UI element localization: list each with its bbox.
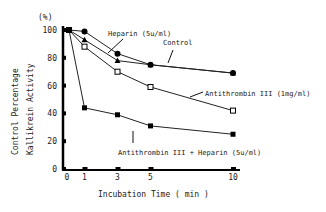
data-point (82, 37, 88, 43)
y-tick-label: 60 (47, 82, 57, 91)
x-axis-label: Incubation Time ( min ) (98, 190, 209, 199)
series-markers (66, 27, 236, 137)
y-unit-label: (%) (38, 13, 52, 22)
x-tick-label: 0 (65, 173, 70, 182)
data-point (115, 51, 121, 57)
x-tick (231, 167, 236, 171)
x-tick (83, 167, 88, 171)
y-tick-label: 40 (47, 109, 57, 118)
x-tick-label: 5 (148, 173, 153, 182)
data-point (231, 132, 236, 137)
annotation-antithrombin: Antithrombin III (1mg/ml) (205, 90, 310, 98)
arrow-antithrombin (190, 92, 203, 97)
data-point (82, 28, 88, 34)
x-tick-label: 3 (115, 173, 120, 182)
annotation-antithrombin-heparin: Antithrombin III + Heparin (5u/ml) (118, 149, 261, 157)
data-point (148, 123, 153, 128)
data-point (82, 105, 87, 110)
arrow-control (168, 50, 173, 63)
y-tick (62, 84, 66, 88)
data-point (231, 108, 236, 113)
x-tick-label: 1 (82, 173, 87, 182)
y-tick-label: 100 (43, 26, 58, 35)
y-tick (62, 167, 66, 171)
data-point (115, 58, 121, 64)
chart-svg: 020406080100013510 (%) Control Percentag… (0, 0, 326, 212)
data-point (82, 44, 87, 49)
arrow-heparin (108, 39, 123, 53)
series-lines (69, 30, 233, 134)
y-tick (62, 111, 66, 115)
y-tick (62, 139, 66, 143)
y-tick (62, 28, 66, 32)
x-tick (116, 167, 121, 171)
x-tick (149, 167, 154, 171)
y-tick-label: 80 (47, 54, 57, 63)
y-axis-label-line1: Control Percentage (11, 68, 20, 155)
data-point (67, 28, 72, 33)
annotation-control: Control (163, 39, 193, 47)
data-point (148, 84, 153, 89)
y-tick-label: 0 (52, 165, 57, 174)
y-axis-label-line2: Kallikrein Activity (26, 63, 35, 155)
y-tick (62, 56, 66, 60)
data-point (115, 69, 120, 74)
y-tick-label: 20 (47, 137, 57, 146)
data-point (115, 112, 120, 117)
kallikrein-activity-chart: 020406080100013510 (%) Control Percentag… (0, 0, 326, 212)
x-tick-label: 10 (228, 173, 238, 182)
annotation-heparin: Heparin (5u/ml) (108, 30, 171, 38)
